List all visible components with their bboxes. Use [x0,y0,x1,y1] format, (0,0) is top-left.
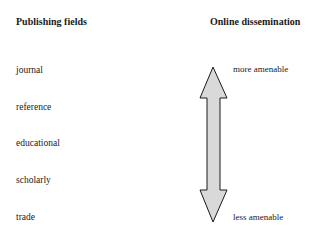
less-amenable-label: less amenable [233,213,283,222]
double-arrow-icon [0,0,315,233]
more-amenable-label: more amenable [233,65,288,74]
